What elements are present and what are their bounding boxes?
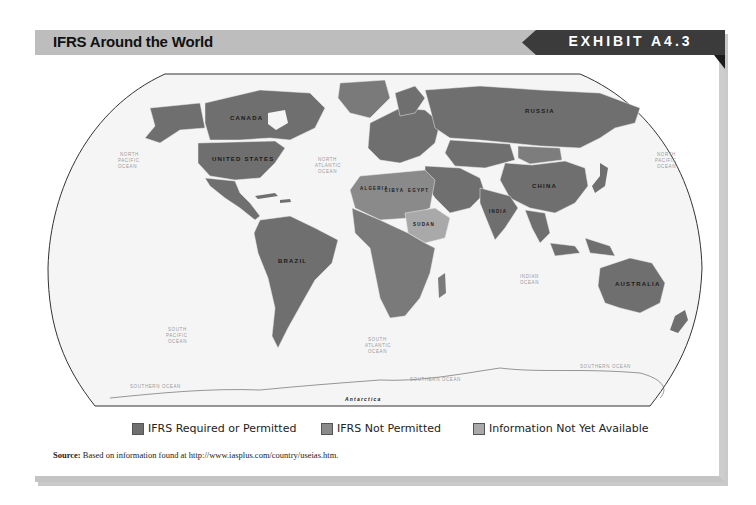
label-sudan: SUDAN [413, 222, 435, 227]
label-southern-ocean-center: SOUTHERN OCEAN [410, 377, 461, 382]
swatch-icon [321, 423, 333, 435]
exhibit-label: EXHIBIT A4.3 [522, 33, 725, 49]
legend-item-required: IFRS Required or Permitted [132, 422, 296, 435]
source-prefix: Source: [53, 450, 81, 460]
swatch-icon [132, 423, 144, 435]
label-south-pacific: SOUTH PACIFIC OCEAN [166, 327, 189, 344]
exhibit-tab: EXHIBIT A4.3 [522, 30, 725, 55]
source-text: Based on information found at http://www… [81, 450, 339, 460]
label-southern-ocean-east: SOUTHERN OCEAN [580, 364, 631, 369]
legend-label: IFRS Not Permitted [337, 422, 441, 435]
label-brazil: BRAZIL [278, 258, 307, 264]
label-australia: AUSTRALIA [615, 281, 660, 287]
label-indian-ocean: INDIAN OCEAN [520, 274, 541, 285]
label-united-states: UNITED STATES [212, 156, 274, 162]
label-china: CHINA [532, 183, 557, 189]
legend-label: Information Not Yet Available [489, 422, 649, 435]
label-southern-ocean-west: SOUTHERN OCEAN [130, 384, 181, 389]
label-india: INDIA [489, 209, 507, 214]
label-north-pacific-east: NORTH PACIFIC OCEAN [655, 152, 678, 169]
world-map: CANADA UNITED STATES BRAZIL RUSSIA CHINA… [40, 68, 708, 408]
legend-item-not-permitted: IFRS Not Permitted [321, 422, 441, 435]
label-russia: RUSSIA [525, 108, 555, 114]
legend: IFRS Required or Permitted IFRS Not Perm… [0, 422, 756, 438]
label-egypt: EGYPT [408, 188, 429, 193]
ribbon-fold [714, 55, 725, 69]
label-libya: LIBYA [385, 188, 404, 193]
label-antarctica: Antarctica [344, 396, 381, 402]
page-title: IFRS Around the World [53, 33, 213, 50]
legend-item-not-available: Information Not Yet Available [473, 422, 649, 435]
swatch-icon [473, 423, 485, 435]
label-canada: CANADA [230, 115, 263, 121]
legend-label: IFRS Required or Permitted [148, 422, 296, 435]
source-note: Source: Based on information found at ht… [53, 450, 338, 460]
